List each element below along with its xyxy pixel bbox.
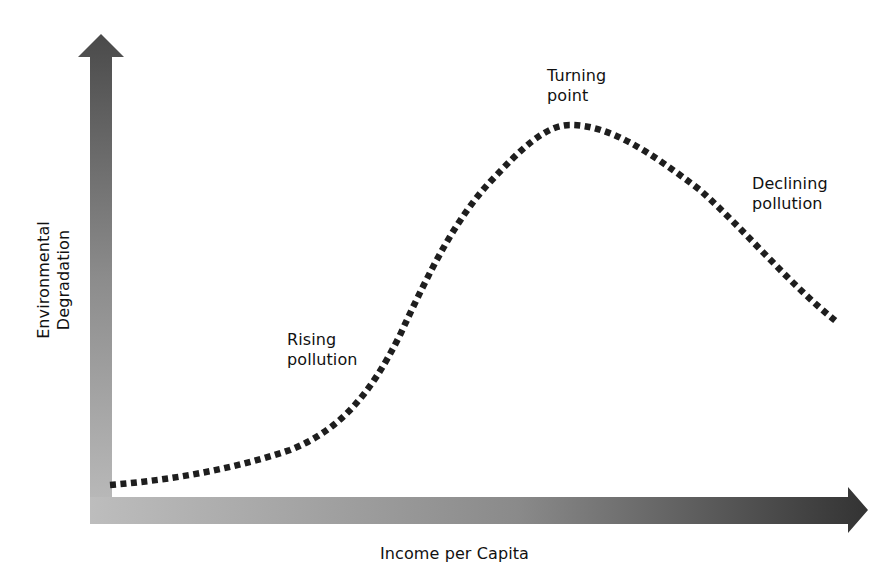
y-axis-label-line-1: Environmental [34, 180, 54, 380]
ekc-diagram [0, 0, 885, 581]
x-axis-arrow [90, 487, 868, 533]
y-axis-arrow [78, 34, 124, 524]
annotation-rising-line-2: pollution [287, 350, 358, 370]
annotation-turning-line-1: Turning [547, 66, 606, 86]
arrow-right-icon [90, 487, 868, 533]
annotation-declining-line-1: Declining [752, 174, 828, 194]
annotation-turning-line-2: point [547, 86, 606, 106]
annotation-rising-line-1: Rising [287, 330, 358, 350]
x-axis-label: Income per Capita [380, 544, 529, 564]
annotation-turning-point: Turning point [547, 66, 606, 106]
arrow-up-icon [78, 34, 124, 524]
annotation-declining-pollution: Declining pollution [752, 174, 828, 214]
annotation-rising-pollution: Rising pollution [287, 330, 358, 370]
y-axis-label: Environmental Degradation [34, 180, 80, 380]
annotation-declining-line-2: pollution [752, 194, 828, 214]
y-axis-label-line-2: Degradation [54, 180, 74, 380]
kuznets-curve [110, 125, 837, 485]
